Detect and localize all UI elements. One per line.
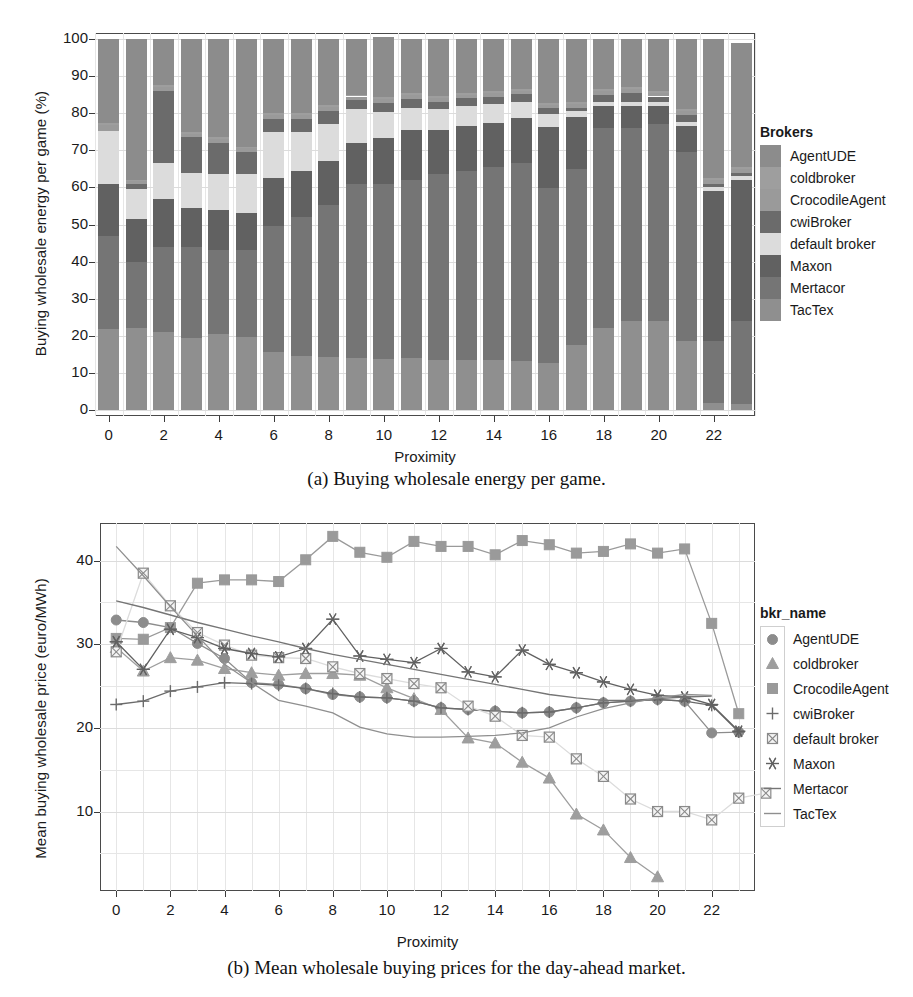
bar-segment [731, 321, 752, 404]
bar-segment [483, 123, 504, 168]
bar-segment [208, 39, 229, 137]
bar-segment [648, 124, 669, 321]
bar-segment [483, 97, 504, 104]
legend-swatch [760, 233, 781, 255]
bar-segment [703, 180, 724, 184]
table-row [566, 33, 587, 416]
bar-segment [456, 39, 477, 93]
bar-segment [428, 96, 449, 98]
y-tick-label: 30 [28, 289, 88, 306]
bar-segment [318, 39, 339, 105]
bar-segment [291, 217, 312, 356]
bar-segment [703, 178, 724, 180]
legend-entry: AgentUDE [760, 626, 889, 651]
x-tick-mark [274, 416, 275, 422]
y-tick-label: 40 [28, 252, 88, 269]
bar-segment [373, 37, 394, 97]
bar-segment [566, 345, 587, 410]
line-series [116, 546, 712, 737]
bar-segment [318, 107, 339, 111]
x-tick-label: 14 [475, 901, 515, 918]
x-tick-label: 4 [205, 901, 245, 918]
bar-segment [538, 103, 559, 105]
bar-segment [676, 152, 697, 341]
legend-label: Maxon [790, 255, 886, 277]
bar-segment [731, 173, 752, 177]
x-tick-label: 12 [419, 426, 459, 443]
x-tick-mark [225, 891, 226, 897]
bar-segment [511, 102, 532, 119]
bar-segment [593, 95, 614, 102]
bar-segment [538, 114, 559, 127]
bar-segment [126, 219, 147, 263]
bar-segment [208, 174, 229, 209]
bar-segment [593, 91, 614, 95]
x-tick-label: 12 [421, 901, 461, 918]
x-tick-label: 10 [364, 426, 404, 443]
legend-entry: default broker [760, 726, 889, 751]
x-tick-mark [549, 416, 550, 422]
legend-entry-label: TacTex [793, 806, 837, 822]
table-row [456, 33, 477, 416]
bar-segment [208, 137, 229, 139]
bar-segment [676, 39, 697, 109]
bar-segment [153, 332, 174, 410]
bar-segment [483, 91, 504, 93]
bar-segment [676, 126, 697, 152]
x-tick-mark [494, 416, 495, 422]
bar-segment [483, 167, 504, 360]
bar-segment [511, 94, 532, 101]
bar-segment [566, 104, 587, 108]
bar-segment [428, 109, 449, 129]
bar-segment [483, 360, 504, 410]
y-tick-label: 10 [28, 363, 88, 380]
bar-segment [318, 124, 339, 161]
bar-segment [126, 181, 147, 184]
x-tick-label: 10 [367, 901, 407, 918]
bar-segment [98, 131, 119, 185]
bar-segment [181, 173, 202, 208]
x-tick-mark [603, 891, 604, 897]
bar-segment [648, 39, 669, 91]
bar-segment [621, 93, 642, 102]
bar-segment [621, 106, 642, 128]
x-tick-label: 18 [583, 901, 623, 918]
bar-segment [456, 98, 477, 105]
bar-segment [511, 89, 532, 91]
bar-segment [291, 356, 312, 410]
bar-segment [538, 363, 559, 410]
bar-segment [456, 126, 477, 171]
x-tick-label: 0 [89, 426, 129, 443]
bar-segment [648, 91, 669, 93]
bar-segment [566, 111, 587, 117]
figure-b-mean-wholesale-prices: Mean buying wholesale price (euro/MWh) 4… [0, 505, 913, 997]
x-tick-label: 16 [529, 901, 569, 918]
y-tick-label: 0 [28, 400, 88, 417]
table-row [593, 33, 614, 416]
bar-segment [126, 328, 147, 410]
x-tick-label: 0 [96, 901, 136, 918]
bar-segment [373, 103, 394, 112]
bar-segment [566, 169, 587, 345]
y-tick-label: 10 [33, 802, 93, 819]
legend-entry-label: Maxon [793, 756, 835, 772]
legend-swatch [760, 167, 781, 189]
bar-segment [703, 39, 724, 178]
bar-segment [208, 250, 229, 333]
bar-segment [181, 338, 202, 410]
bar-segment [456, 106, 477, 126]
bar-segment [511, 39, 532, 89]
legend-marker [760, 776, 785, 801]
bar-segment [401, 39, 422, 93]
bar-segment [676, 111, 697, 115]
x-tick-label: 14 [474, 426, 514, 443]
figure-a-legend-title: Brokers [760, 124, 886, 140]
x-tick-mark [116, 891, 117, 897]
bar-segment [676, 109, 697, 111]
table-row [676, 33, 697, 416]
x-tick-mark [219, 416, 220, 422]
figure-b-series-canvas [100, 523, 755, 891]
bar-segment [593, 128, 614, 328]
bar-segment [538, 105, 559, 109]
bar-segment [263, 113, 284, 115]
